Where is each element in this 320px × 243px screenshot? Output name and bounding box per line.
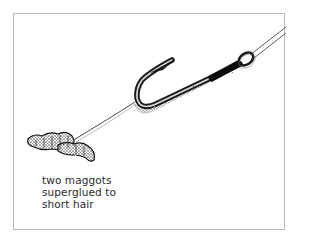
hair	[72, 102, 136, 142]
maggots	[28, 132, 95, 161]
hook	[137, 59, 240, 106]
fishing-line	[250, 27, 286, 58]
caption-line-2: superglued to	[42, 186, 116, 198]
caption-line-3: short hair	[42, 198, 116, 210]
caption: two maggots superglued to short hair	[42, 174, 116, 210]
hook-eye	[236, 50, 258, 71]
caption-line-1: two maggots	[42, 174, 116, 186]
